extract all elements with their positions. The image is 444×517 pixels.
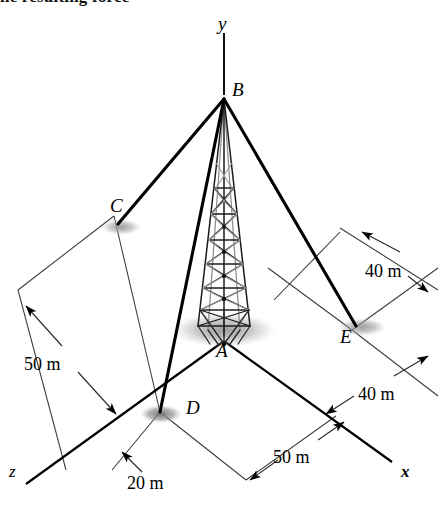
figure-canvas: [0, 0, 444, 517]
z-axis-label: z: [9, 463, 16, 480]
leader-40m-upper-a: [362, 232, 400, 252]
point-d-label: D: [186, 398, 200, 417]
ground-line-c-to-d: [114, 216, 160, 412]
coordinate-axes: [26, 33, 392, 484]
point-a-label: A: [216, 341, 228, 360]
dimension-20m-bottom-left-label: 20 m: [127, 474, 164, 492]
dimension-40m-lower-right-label: 40 m: [358, 385, 395, 403]
cable-b-to-c: [118, 99, 224, 224]
leader-50m-left-lower: [78, 372, 116, 414]
dimension-50m-left-label: 50 m: [24, 355, 61, 373]
leader-40m-upper-b: [408, 276, 428, 292]
x-axis-label: x: [401, 463, 410, 480]
lattice-tower: [198, 99, 250, 346]
dimension-40m-upper-right-label: 40 m: [365, 262, 402, 280]
point-b-label: B: [232, 80, 244, 99]
ground-line-d-southeast: [160, 412, 246, 480]
cable-b-to-e: [224, 99, 356, 326]
ground-shadows: [101, 219, 386, 423]
point-e-label: E: [340, 327, 352, 346]
ground-plane-lines: [18, 216, 438, 480]
dimension-50m-bottom-label: 50 m: [273, 448, 310, 466]
tower-statics-figure: he resulting force: [0, 0, 444, 517]
leader-40m-lower-b: [326, 396, 354, 414]
y-axis-label: y: [218, 14, 226, 33]
guy-cables: [118, 99, 356, 412]
leader-50m-bottom-a: [318, 422, 344, 440]
ground-line-west-to-south: [18, 290, 66, 470]
point-c-label: C: [110, 196, 123, 215]
leader-20m-a: [122, 452, 142, 472]
ground-line-c-west: [18, 216, 114, 290]
